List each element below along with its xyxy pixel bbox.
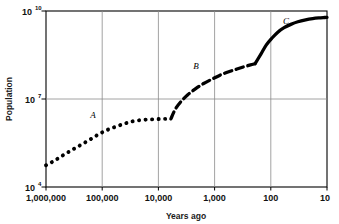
x-axis-title: Years ago xyxy=(166,211,206,221)
x-tick-label-10: 10 xyxy=(320,193,330,203)
y-tick-label-1e4-mantissa: 10 xyxy=(25,183,35,193)
x-tick-label-1000: 1,000 xyxy=(203,193,226,203)
series-label-A: A xyxy=(89,110,96,120)
x-tick-label-10000: 10,000 xyxy=(145,193,173,203)
series-label-B: B xyxy=(193,61,199,71)
population-vs-years-ago-chart: 10 10 10 7 10 4 1,000,000 100,000 10,000… xyxy=(0,0,339,224)
x-tick-label-1000000: 1,000,000 xyxy=(26,193,66,203)
x-tick-label-100000: 100,000 xyxy=(86,193,119,203)
y-tick-label-1e7-mantissa: 10 xyxy=(25,95,35,105)
x-tick-label-100: 100 xyxy=(263,193,278,203)
series-label-C: C xyxy=(283,16,290,26)
y-tick-label-1e10-mantissa: 10 xyxy=(22,7,32,17)
y-tick-label-1e10-exponent: 10 xyxy=(35,5,42,11)
y-axis-title: Population xyxy=(4,77,14,121)
